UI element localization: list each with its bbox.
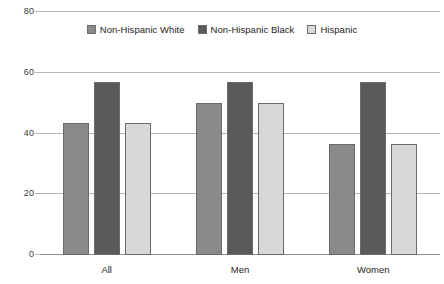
bar-women-hispanic[interactable] — [391, 144, 417, 255]
bar-women-non-hispanic-black[interactable] — [360, 82, 386, 255]
bar-groups: AllMenWomen — [40, 12, 440, 255]
y-tick-label-80: 80 — [24, 6, 34, 16]
y-tick-label-40: 40 — [24, 128, 34, 138]
bar-men-hispanic[interactable] — [258, 103, 284, 255]
x-tick-label-women: Women — [307, 264, 440, 275]
plot-area: 020406080 AllMenWomen — [40, 12, 440, 255]
y-tick-label-20: 20 — [24, 188, 34, 198]
y-tick-label-60: 60 — [24, 67, 34, 77]
bar-chart: Non-Hispanic White Non-Hispanic Black Hi… — [0, 0, 444, 284]
bar-group-women: Women — [307, 12, 440, 255]
bar-men-non-hispanic-white[interactable] — [196, 103, 222, 255]
x-tick-label-men: Men — [173, 264, 306, 275]
bar-group-all: All — [40, 12, 173, 255]
bar-all-non-hispanic-black[interactable] — [94, 82, 120, 255]
bar-women-non-hispanic-white[interactable] — [329, 144, 355, 255]
bar-group-men: Men — [173, 12, 306, 255]
bar-men-non-hispanic-black[interactable] — [227, 82, 253, 255]
y-tick-label-0: 0 — [29, 249, 34, 259]
bar-all-hispanic[interactable] — [125, 123, 151, 255]
x-tick-label-all: All — [40, 264, 173, 275]
bar-all-non-hispanic-white[interactable] — [63, 123, 89, 255]
